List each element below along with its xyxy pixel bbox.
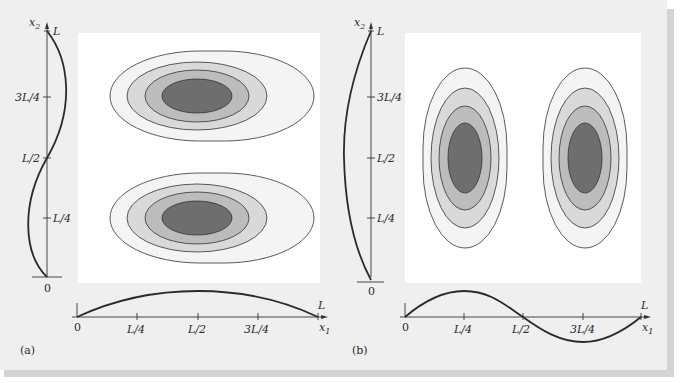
panel-b-y-tick-L2: L/2 <box>376 152 395 165</box>
panel-a-y-tick-L2: L/2 <box>21 152 40 165</box>
panel-a-x-tick-L2: L/2 <box>187 323 206 336</box>
panel-a-y-tick-3L4: 3L/4 <box>15 91 40 104</box>
panel-b-y-tick-L4: L/4 <box>376 212 395 225</box>
panel-a-y-origin-label: 0 <box>44 282 51 295</box>
panel-b-caption: (b) <box>352 344 368 357</box>
panel-b-contour-left <box>423 68 507 248</box>
figure: x2 L 3L/4 L/2 L/4 0 0 L/4 L/2 3L/4 L x1 … <box>0 0 681 383</box>
panel-b-contour-right <box>543 68 627 248</box>
panel-a-x-tick-L4: L/4 <box>126 323 145 336</box>
panel-a-x-origin-label: 0 <box>74 321 81 334</box>
panel-b-y-origin-label: 0 <box>368 285 375 298</box>
panel-a-y-end-label: L <box>52 25 60 38</box>
panel-b-x-tick-L4: L/4 <box>453 323 472 336</box>
panel-b-x-tick-3L4: 3L/4 <box>570 323 595 336</box>
panel-b-y-tick-3L4: 3L/4 <box>377 91 402 104</box>
panel-a-y-tick-L4: L/4 <box>52 212 71 225</box>
panel-a-x-end-label: L <box>317 299 325 312</box>
panel-a-contour-lower <box>110 173 314 263</box>
panel-b-x-origin-label: 0 <box>402 321 409 334</box>
panel-b-x-end-label: L <box>640 299 648 312</box>
panel-b-y-end-label: L <box>376 25 384 38</box>
panel-b-x-tick-L2: L/2 <box>511 323 530 336</box>
panel-a-x-tick-3L4: 3L/4 <box>244 323 269 336</box>
panel-a-caption: (a) <box>20 344 35 357</box>
panel-a-contour-upper <box>110 51 314 141</box>
